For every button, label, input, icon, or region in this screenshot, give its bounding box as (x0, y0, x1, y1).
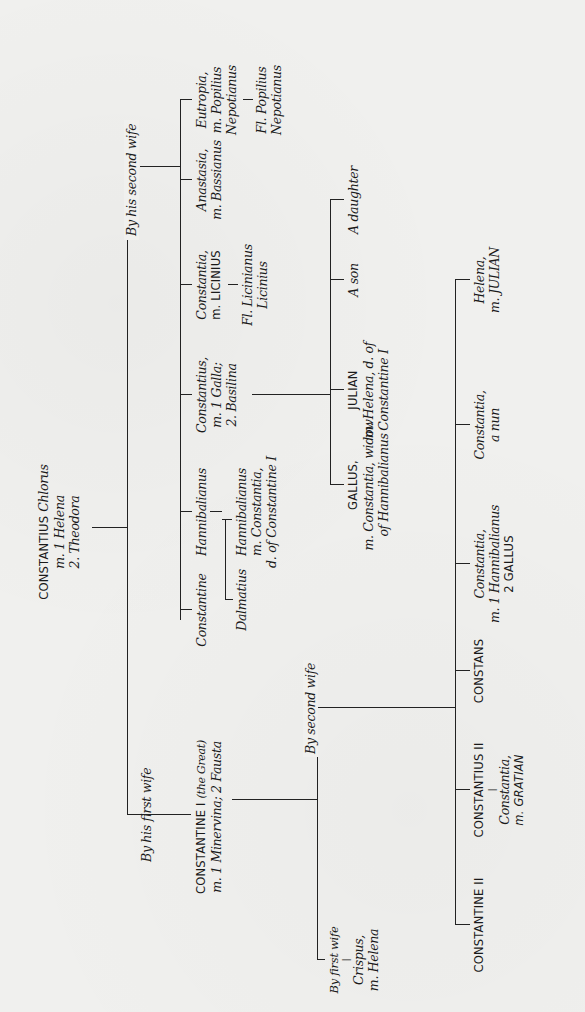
constantia-gratian-spouse: m. GRATIAN (512, 743, 527, 838)
eutropia-name: Eutropia, (194, 65, 209, 135)
node-a-daughter: A daughter (346, 166, 361, 234)
drop-second-wife-ci (317, 707, 325, 708)
crispus-connector: | (342, 927, 351, 994)
drop-a-daughter (330, 199, 344, 200)
node-constantia-hannibalianus-gallus: Constantia, m. 1 Hannibalianus 2 GALLUS (472, 505, 517, 623)
drop-helena (455, 279, 470, 280)
constantia-1-name: Constantia, (472, 505, 487, 623)
drop-constantia-licinius (180, 284, 192, 285)
licinianus-line2: Licinius (255, 244, 270, 326)
node-constantine-i: CONSTANTINE I (the Great) m. 1 Minervina… (193, 740, 224, 894)
constantia-licinius-name: Constantia, (194, 250, 209, 320)
node-crispus: By first wife | Crispus, m. Helena (327, 927, 381, 994)
constantine-i-children-bar (455, 280, 456, 925)
constantius-children-bar (330, 200, 331, 485)
node-constantius-ii: CONSTANTIUS II | Constantia, m. GRATIAN (472, 743, 527, 838)
root-line2: m. 1 Helena (52, 464, 67, 599)
hannibalianus-name: Hannibalianus (194, 468, 209, 556)
a-daughter-name: A daughter (346, 166, 361, 234)
drop-constantine (180, 609, 192, 610)
gallus-spouse-detail: of Hannibalianus (376, 419, 391, 550)
constantine-ii-name: CONSTANTINE II (472, 877, 487, 972)
drop-constantia-nun (455, 424, 470, 425)
drop-constantius (180, 394, 192, 395)
anastasia-name: Anastasia, (194, 140, 209, 220)
second-wife-children-bar (180, 100, 181, 620)
node-constantine: Constantine (194, 573, 209, 646)
licinius-connector (228, 284, 238, 285)
a-son-name: A son (346, 263, 361, 297)
julian-spouse-detail: Constantine I (376, 342, 391, 438)
constantia-licinius-spouse: m. LICINIUS (209, 250, 224, 320)
drop-hannibalianus (180, 511, 192, 512)
node-helena: Helena, m. JULIAN (472, 247, 502, 313)
popilius-line2: Nepotianus (269, 65, 284, 135)
gallus-name: GALLUS, (346, 419, 361, 550)
drop-first-wife (127, 814, 137, 815)
dalmatius-name: Dalmatius (234, 569, 249, 631)
eutropia-connector (243, 99, 253, 100)
helena-spouse: m. JULIAN (487, 247, 502, 313)
drop-anastasia (180, 179, 192, 180)
second-wife-stem-tr (140, 166, 180, 167)
root-line3: 2. Theodora (67, 464, 82, 599)
drop-constans (455, 670, 470, 671)
hannibalianus-stem (210, 511, 222, 512)
drop-constantius-ii (455, 789, 470, 790)
constantine-i-epithet: (the Great) (195, 740, 208, 798)
constantine-i-name: CONSTANTINE I (194, 802, 208, 894)
drop-eutropia (180, 99, 192, 100)
node-licinianus: Fl. Licinianus Licinius (240, 244, 270, 326)
hannibalianus-jr-name: Hannibalianus (234, 456, 249, 568)
anastasia-spouse: m. Bassianus (209, 140, 224, 220)
root-suffix: Chlorus (36, 464, 51, 511)
constantia-1-spouse2: 2 GALLUS (502, 505, 517, 623)
licinianus-name: Fl. Licinianus (240, 244, 255, 326)
drop-constantine-ii (455, 924, 470, 925)
drop-julian (330, 389, 344, 390)
constantius-stem (252, 394, 330, 395)
hannibalianus-jr-spouse-detail: d. of Constantine I (264, 456, 279, 568)
node-hannibalianus: Hannibalianus (194, 468, 209, 556)
constantia-gratian-name: Constantia, (497, 743, 512, 838)
stem-constantine-i-up (137, 814, 191, 815)
node-constantia-nun: Constantia, a nun (472, 390, 502, 459)
label-by-first-wife: By first wife (327, 927, 342, 994)
julian-name: JULIAN (346, 342, 361, 438)
constantine-i-marriages: m. 1 Minervina; 2 Fausta (209, 740, 224, 894)
drop-constantia-gallus (455, 563, 470, 564)
gallus-spouse: m. Constantia, widow (361, 419, 376, 550)
hannibalianus-jr-spouse: m. Constantia, (249, 456, 264, 568)
drop-dalmatius (225, 599, 233, 600)
constantius-ii-name: CONSTANTIUS II (472, 743, 487, 838)
drop-crispus (317, 959, 325, 960)
label-by-second-wife: By second wife (303, 660, 318, 757)
constans-name: CONSTANS (472, 639, 487, 704)
root-children-bar (127, 148, 128, 815)
node-popilius-nepotianus: Fl. Popilius Nepotianus (254, 65, 284, 135)
node-constantius: Constantius, m. 1 Galla; 2. Basilina (194, 357, 239, 433)
node-constantia-licinius: Constantia, m. LICINIUS (194, 250, 224, 320)
julian-spouse: m. Helena, d. of (361, 342, 376, 438)
node-julian: JULIAN m. Helena, d. of Constantine I (346, 342, 391, 438)
node-dalmatius: Dalmatius (234, 569, 249, 631)
crispus-name: Crispus, (351, 927, 366, 994)
drop-hannibalianus-jr (222, 519, 232, 520)
constantia-1-spouse1: m. 1 Hannibalianus (487, 505, 502, 623)
family-tree-diagram: CONSTANTIUS Chlorus m. 1 Helena 2. Theod… (0, 0, 585, 1012)
constantia-nun-note: a nun (487, 390, 502, 459)
node-constans: CONSTANS (472, 639, 487, 704)
drop-a-son (330, 279, 344, 280)
constantine-name: Constantine (194, 573, 209, 646)
second-wife-stem (325, 707, 455, 708)
constantius-name: Constantius, (194, 357, 209, 433)
root-name: CONSTANTIUS (37, 516, 51, 600)
node-constantine-ii: CONSTANTINE II (472, 877, 487, 972)
helena-name: Helena, (472, 247, 487, 313)
constantius-ii-connector: | (487, 743, 497, 838)
node-gallus: GALLUS, m. Constantia, widow of Hannibal… (346, 419, 391, 550)
node-hannibalianus-jr: Hannibalianus m. Constantia, d. of Const… (234, 456, 279, 568)
constantine-i-stem-down (232, 799, 317, 800)
eutropia-spouse-detail: Nepotianus (224, 65, 239, 135)
label-by-his-second-wife: By his second wife (124, 120, 139, 240)
